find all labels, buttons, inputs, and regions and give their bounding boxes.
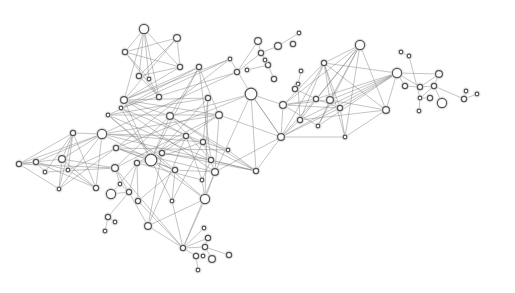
node-circle[interactable] [145, 154, 157, 166]
node-circle[interactable] [226, 252, 231, 257]
graph-node[interactable] [143, 221, 153, 231]
node-circle[interactable] [106, 113, 110, 117]
node-circle[interactable] [193, 253, 198, 258]
graph-node[interactable] [325, 95, 335, 105]
node-circle[interactable] [355, 40, 364, 49]
graph-node[interactable] [314, 122, 321, 129]
graph-node[interactable] [253, 36, 263, 46]
node-circle[interactable] [271, 76, 276, 81]
graph-node[interactable] [207, 254, 217, 264]
node-circle[interactable] [316, 124, 320, 128]
node-circle[interactable] [119, 106, 123, 110]
graph-node[interactable] [145, 75, 152, 82]
node-circle[interactable] [147, 77, 151, 81]
node-circle[interactable] [297, 31, 301, 35]
node-circle[interactable] [70, 130, 75, 135]
node-circle[interactable] [208, 157, 213, 162]
graph-node[interactable] [125, 188, 134, 197]
graph-node[interactable] [405, 52, 412, 59]
node-circle[interactable] [134, 160, 139, 165]
graph-node[interactable] [110, 163, 120, 173]
node-circle[interactable] [201, 254, 205, 258]
graph-node[interactable] [276, 132, 286, 142]
node-circle[interactable] [321, 60, 326, 65]
node-circle[interactable] [106, 189, 115, 198]
node-circle[interactable] [383, 107, 390, 114]
graph-node[interactable] [104, 213, 113, 222]
graph-node[interactable] [401, 82, 410, 91]
node-circle[interactable] [407, 54, 411, 58]
node-circle[interactable] [113, 145, 118, 150]
node-circle[interactable] [170, 199, 174, 203]
node-circle[interactable] [103, 229, 107, 233]
node-circle[interactable] [183, 133, 188, 138]
node-circle[interactable] [126, 189, 131, 194]
graph-node[interactable] [297, 67, 304, 74]
graph-node[interactable] [436, 97, 449, 110]
graph-node[interactable] [225, 251, 234, 260]
graph-node[interactable] [192, 252, 201, 261]
node-circle[interactable] [202, 244, 207, 249]
graph-node[interactable] [92, 184, 101, 193]
node-circle[interactable] [145, 223, 152, 230]
node-circle[interactable] [200, 139, 205, 144]
graph-node[interactable] [397, 48, 404, 55]
node-circle[interactable] [392, 68, 401, 77]
graph-node[interactable] [295, 29, 302, 36]
graph-node[interactable] [57, 154, 67, 164]
graph-node[interactable] [179, 244, 188, 253]
graph-node[interactable] [204, 234, 213, 243]
graph-node[interactable] [116, 180, 123, 187]
graph-node[interactable] [194, 266, 201, 273]
node-circle[interactable] [253, 168, 258, 173]
node-circle[interactable] [290, 41, 295, 46]
node-circle[interactable] [327, 97, 334, 104]
node-circle[interactable] [135, 198, 140, 203]
graph-node[interactable] [210, 167, 220, 177]
node-circle[interactable] [313, 96, 318, 101]
node-circle[interactable] [200, 194, 209, 203]
node-circle[interactable] [343, 135, 347, 139]
graph-node[interactable] [354, 39, 367, 52]
graph-node[interactable] [105, 188, 118, 201]
graph-node[interactable] [201, 243, 210, 252]
graph-node[interactable] [226, 55, 233, 62]
node-circle[interactable] [437, 98, 446, 107]
graph-node[interactable] [182, 132, 191, 141]
node-circle[interactable] [436, 71, 443, 78]
node-circle[interactable] [418, 96, 422, 100]
node-circle[interactable] [202, 226, 206, 230]
node-circle[interactable] [278, 134, 285, 141]
node-circle[interactable] [59, 156, 66, 163]
node-circle[interactable] [121, 97, 128, 104]
graph-node[interactable] [55, 185, 62, 192]
node-circle[interactable] [180, 245, 185, 250]
graph-node[interactable] [199, 138, 208, 147]
graph-node[interactable] [460, 95, 469, 104]
node-circle[interactable] [136, 73, 141, 78]
node-circle[interactable] [97, 129, 106, 138]
graph-node[interactable] [41, 168, 48, 175]
graph-node[interactable] [69, 129, 78, 138]
graph-node[interactable] [135, 72, 144, 81]
graph-node[interactable] [273, 41, 283, 51]
graph-node[interactable] [320, 59, 329, 68]
graph-node[interactable] [198, 176, 205, 183]
graph-node[interactable] [64, 166, 71, 173]
node-circle[interactable] [167, 113, 174, 120]
graph-node[interactable] [104, 111, 111, 118]
node-circle[interactable] [200, 178, 204, 182]
node-circle[interactable] [297, 117, 302, 122]
node-circle[interactable] [66, 168, 70, 172]
graph-node[interactable] [101, 227, 108, 234]
graph-node[interactable] [261, 56, 268, 63]
graph-node[interactable] [381, 105, 391, 115]
node-circle[interactable] [196, 64, 201, 69]
node-circle[interactable] [118, 182, 122, 186]
node-circle[interactable] [263, 58, 267, 62]
graph-node[interactable] [291, 85, 300, 94]
node-circle[interactable] [177, 64, 182, 69]
node-circle[interactable] [275, 43, 282, 50]
node-circle[interactable] [280, 102, 287, 109]
node-circle[interactable] [159, 150, 164, 155]
